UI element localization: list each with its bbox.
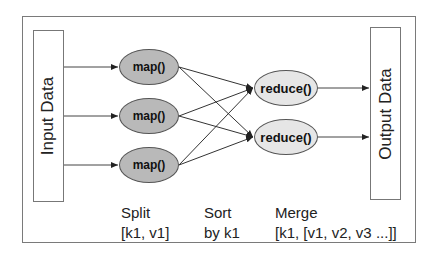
mapreduce-diagram: Input Data Output Data map() map() map()… <box>0 0 438 262</box>
reduce-node-1: reduce() <box>254 70 318 106</box>
stage-detail: by k1 <box>204 223 240 243</box>
stage-title: Sort <box>204 203 240 223</box>
stage-sort: Sort by k1 <box>204 203 240 243</box>
input-data-label: Input Data <box>39 77 59 155</box>
stage-title: Merge <box>275 203 397 223</box>
input-data-box: Input Data <box>33 30 64 202</box>
map-node-3: map() <box>119 147 179 183</box>
output-data-box: Output Data <box>370 27 401 200</box>
stage-detail: [k1, [v1, v2, v3 ...]] <box>275 223 397 243</box>
stage-merge: Merge [k1, [v1, v2, v3 ...]] <box>275 203 397 243</box>
reduce-node-2: reduce() <box>254 119 318 155</box>
reduce-node-label: reduce() <box>260 81 311 96</box>
output-data-label: Output Data <box>376 68 396 160</box>
stage-detail: [k1, v1] <box>121 223 169 243</box>
edge-map3-reduce2 <box>179 137 253 165</box>
reduce-node-label: reduce() <box>260 130 311 145</box>
edge-map2-reduce1 <box>179 88 253 116</box>
map-node-label: map() <box>133 109 166 123</box>
stage-split: Split [k1, v1] <box>121 203 169 243</box>
map-node-1: map() <box>119 49 179 85</box>
stage-title: Split <box>121 203 169 223</box>
map-node-label: map() <box>133 60 166 74</box>
map-node-label: map() <box>133 158 166 172</box>
map-node-2: map() <box>119 98 179 134</box>
